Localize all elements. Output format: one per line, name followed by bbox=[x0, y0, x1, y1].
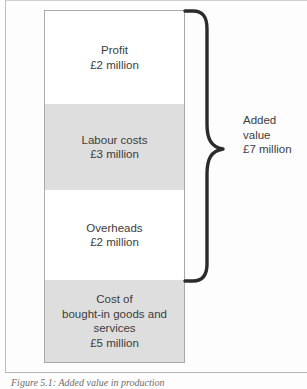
bar-segment-labour-costs-label: Labour costs bbox=[82, 133, 148, 148]
figure-container: Profit £2 million Labour costs £3 millio… bbox=[0, 0, 307, 389]
figure-caption: Figure 5.1: Added value in production bbox=[11, 377, 165, 389]
added-value-annotation: Added value £7 million bbox=[243, 113, 307, 157]
added-value-line-2: value bbox=[243, 128, 307, 143]
bar-segment-bought-in-goods-label: Cost of bought-in goods and services bbox=[62, 292, 167, 336]
bar-segment-profit-label: Profit bbox=[101, 43, 128, 58]
bar-segment-bought-in-goods: Cost of bought-in goods and services £5 … bbox=[45, 280, 184, 362]
added-value-line-1: Added bbox=[243, 113, 307, 128]
bar-segment-overheads: Overheads £2 million bbox=[45, 190, 184, 280]
bar-segment-bought-in-goods-amount: £5 million bbox=[90, 336, 139, 351]
bar-segment-overheads-amount: £2 million bbox=[90, 235, 139, 250]
figure-frame-top-rule bbox=[5, 0, 307, 1]
bar-segment-profit-amount: £2 million bbox=[90, 58, 139, 73]
bar-segment-overheads-label: Overheads bbox=[86, 221, 142, 236]
added-value-brace-icon bbox=[183, 6, 239, 286]
bar-segment-labour-costs: Labour costs £3 million bbox=[45, 104, 184, 190]
bar-segment-profit: Profit £2 million bbox=[45, 11, 184, 104]
added-value-stacked-bar: Profit £2 million Labour costs £3 millio… bbox=[44, 10, 185, 363]
figure-caption-rule bbox=[5, 372, 307, 373]
bar-segment-labour-costs-amount: £3 million bbox=[90, 147, 139, 162]
added-value-amount: £7 million bbox=[243, 142, 307, 157]
figure-frame-left-rule bbox=[5, 0, 6, 372]
